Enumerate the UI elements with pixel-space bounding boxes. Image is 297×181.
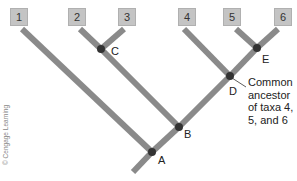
branch-taxon-4 bbox=[184, 29, 230, 76]
taxon-4-box: 4 bbox=[178, 8, 196, 26]
node-c-dot bbox=[97, 45, 105, 53]
taxon-6-box: 6 bbox=[274, 8, 292, 26]
taxon-3-box: 3 bbox=[118, 8, 136, 26]
copyright-credit: © Cengage Learning bbox=[2, 105, 9, 165]
branch-d-e bbox=[230, 48, 257, 76]
annotation-line-4: 5, and 6 bbox=[248, 114, 293, 127]
node-e-label: E bbox=[262, 53, 269, 65]
node-d-dot bbox=[226, 72, 234, 80]
node-a-dot bbox=[148, 148, 156, 156]
taxon-1-box: 1 bbox=[10, 8, 28, 26]
node-d-label: D bbox=[229, 85, 237, 97]
branch-b-d bbox=[179, 76, 230, 127]
node-a-label: A bbox=[158, 154, 165, 166]
taxon-5-box: 5 bbox=[223, 8, 241, 26]
node-b-dot bbox=[175, 123, 183, 131]
branch-taxon-1 bbox=[22, 29, 152, 152]
branch-taxon-6 bbox=[257, 29, 278, 48]
annotation-line-2: ancestor bbox=[248, 89, 293, 102]
branch-taxon-5 bbox=[236, 29, 257, 48]
node-e-dot bbox=[253, 44, 261, 52]
annotation-line-3: of taxa 4, bbox=[248, 101, 293, 114]
node-c-label: C bbox=[111, 45, 119, 57]
branch-root bbox=[133, 152, 152, 172]
node-b-label: B bbox=[184, 128, 191, 140]
branch-a-b bbox=[152, 127, 179, 152]
branch-taxon-2 bbox=[80, 29, 101, 49]
common-ancestor-annotation: Common ancestor of taxa 4, 5, and 6 bbox=[248, 76, 293, 126]
annotation-line-1: Common bbox=[248, 76, 293, 89]
taxon-2-box: 2 bbox=[68, 8, 86, 26]
